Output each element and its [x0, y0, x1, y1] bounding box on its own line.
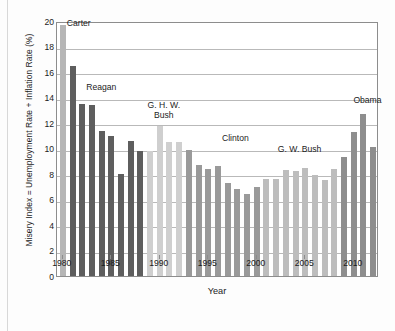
x-tickmark-2000: [256, 255, 257, 259]
x-tick-2000: 2000: [236, 259, 276, 268]
y-tick-10: 10: [30, 145, 54, 154]
bar-1992: [176, 142, 182, 276]
x-tick-1995: 1995: [187, 259, 227, 268]
bar-1981: [70, 66, 76, 276]
bar-1993: [186, 150, 192, 276]
x-tickmark-1985: [110, 255, 111, 259]
y-tick-20: 20: [30, 18, 54, 27]
annotation-g-h-w-bush: G. H. W. Bush: [138, 100, 190, 120]
x-tickmark-1990: [159, 255, 160, 259]
annotation-g-w-bush: G. W. Bush: [274, 144, 326, 154]
x-tickmark-2010: [353, 255, 354, 259]
bar-series: [57, 23, 377, 276]
page-edge-rule: [7, 0, 8, 331]
bar-1991: [166, 142, 172, 276]
bar-2012: [370, 147, 376, 276]
bar-1984: [99, 131, 105, 276]
y-tick-8: 8: [30, 171, 54, 180]
y-tick-6: 6: [30, 196, 54, 205]
y-tick-16: 16: [30, 69, 54, 78]
x-tick-1980: 1980: [42, 259, 82, 268]
bar-1982: [79, 104, 85, 276]
x-tick-2005: 2005: [284, 259, 324, 268]
bar-1988: [137, 151, 143, 276]
x-axis-title: Year: [56, 286, 378, 296]
annotation-reagan: Reagan: [86, 82, 116, 92]
y-tick-2: 2: [30, 247, 54, 256]
x-tick-1985: 1985: [90, 259, 130, 268]
annotation-carter: Carter: [67, 18, 91, 28]
y-tick-18: 18: [30, 43, 54, 52]
plot-area: CarterReaganG. H. W. BushClintonG. W. Bu…: [56, 22, 378, 277]
bar-1980: [60, 25, 66, 276]
misery-index-chart: Misery Index = Unemployment Rate + Infla…: [0, 0, 395, 331]
bar-2011: [360, 114, 366, 276]
bar-1983: [89, 105, 95, 276]
y-tick-12: 12: [30, 120, 54, 129]
x-tick-1990: 1990: [139, 259, 179, 268]
annotation-clinton: Clinton: [222, 133, 249, 143]
y-tick-0: 0: [30, 273, 54, 282]
y-tick-4: 4: [30, 222, 54, 231]
x-tickmark-1980: [62, 255, 63, 259]
x-tickmark-2005: [304, 255, 305, 259]
bar-1987: [128, 141, 134, 276]
annotation-obama: Obama: [341, 95, 393, 105]
x-tick-2010: 2010: [333, 259, 373, 268]
y-tick-14: 14: [30, 94, 54, 103]
x-tickmark-1995: [207, 255, 208, 259]
bar-1990: [157, 126, 163, 276]
